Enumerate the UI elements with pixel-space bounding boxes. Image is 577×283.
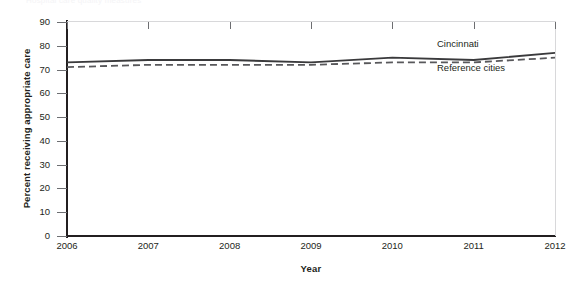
- y-tick-mark: [57, 22, 67, 23]
- cropped-header-text: Hospital care quality measures: [26, 0, 326, 6]
- series-lines: [67, 22, 555, 236]
- y-tick-mark: [57, 236, 67, 237]
- y-tick-label: 10: [6, 206, 50, 217]
- legend-label-reference-cities: Reference cities: [437, 62, 505, 73]
- series-line-cincinnati: [67, 53, 555, 63]
- legend-label-cincinnati: Cincinnati: [437, 38, 479, 49]
- y-tick-label: 50: [6, 111, 50, 122]
- y-tick-mark: [57, 188, 67, 189]
- y-tick-label: 20: [6, 182, 50, 193]
- y-tick-mark: [57, 212, 67, 213]
- y-tick-mark: [57, 165, 67, 166]
- x-tick-label: 2011: [444, 240, 504, 251]
- y-tick-mark: [57, 117, 67, 118]
- x-tick-mark: [555, 22, 556, 29]
- y-tick-label: 70: [6, 64, 50, 75]
- y-tick-mark: [57, 93, 67, 94]
- x-tick-label: 2010: [362, 240, 422, 251]
- x-tick-label: 2008: [200, 240, 260, 251]
- y-tick-label: 40: [6, 135, 50, 146]
- y-tick-label: 80: [6, 40, 50, 51]
- x-tick-label: 2009: [281, 240, 341, 251]
- x-tick-label: 2006: [37, 240, 97, 251]
- plot-area: [67, 22, 555, 236]
- y-tick-mark: [57, 141, 67, 142]
- plot-frame-right: [555, 21, 556, 236]
- y-tick-label: 60: [6, 87, 50, 98]
- x-axis-title: Year: [67, 263, 555, 274]
- y-tick-label: 90: [6, 16, 50, 27]
- y-tick-mark: [57, 70, 67, 71]
- x-tick-label: 2007: [118, 240, 178, 251]
- chart-figure: Hospital care quality measures Percent r…: [0, 0, 577, 283]
- y-tick-label: 30: [6, 159, 50, 170]
- x-tick-label: 2012: [525, 240, 577, 251]
- y-tick-mark: [57, 46, 67, 47]
